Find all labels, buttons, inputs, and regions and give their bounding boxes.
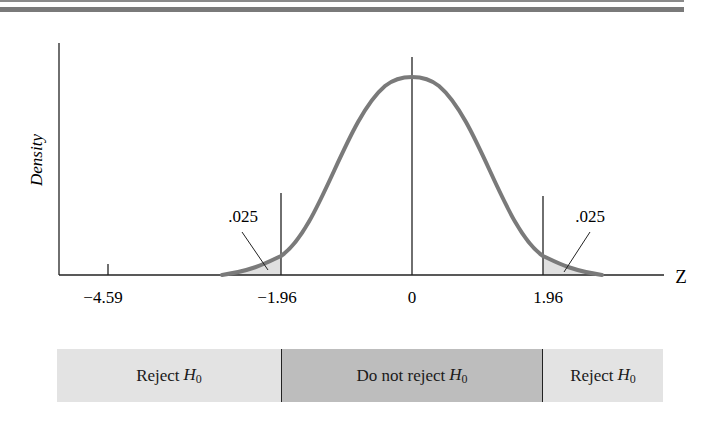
region-reject-left: Reject H0 (57, 349, 281, 402)
hypothesis-subscript: 0 (196, 372, 202, 386)
region-label: Reject (136, 366, 179, 386)
x-tick-label-m196: −1.96 (257, 288, 296, 307)
normal-distribution-chart: .025 .025 −4.59 −1.96 0 1.96 Z Density (0, 0, 720, 340)
hypothesis-symbol: H0 (184, 365, 202, 387)
region-label: Do not reject (356, 366, 445, 386)
right-tail-label: .025 (575, 207, 605, 226)
region-label: Reject (570, 366, 613, 386)
left-tail-pointer (242, 232, 268, 270)
x-tick-label-m459: −4.59 (83, 288, 122, 307)
left-tail-label: .025 (228, 207, 258, 226)
right-tail-pointer (564, 232, 590, 272)
y-axis-label: Density (27, 134, 46, 187)
decision-regions-bar: Reject H0 Do not reject H0 Reject H0 (57, 349, 663, 402)
hypothesis-symbol: H0 (618, 365, 636, 387)
hypothesis-subscript: 0 (462, 372, 468, 386)
x-tick-label-0: 0 (408, 288, 417, 307)
region-do-not-reject: Do not reject H0 (281, 349, 543, 402)
x-tick-label-196: 1.96 (533, 288, 563, 307)
region-reject-right: Reject H0 (543, 349, 663, 402)
hypothesis-symbol: H0 (449, 365, 467, 387)
hypothesis-letter: H (618, 365, 630, 384)
x-axis-label: Z (675, 266, 687, 287)
hypothesis-subscript: 0 (630, 372, 636, 386)
hypothesis-letter: H (449, 365, 461, 384)
hypothesis-letter: H (184, 365, 196, 384)
